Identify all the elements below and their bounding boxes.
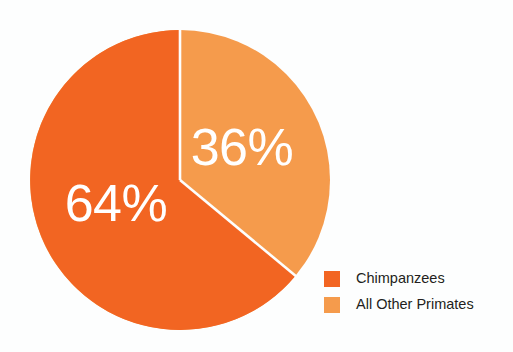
legend-item-all-other-primates[interactable]: All Other Primates <box>324 296 474 313</box>
legend-label-chimpanzees: Chimpanzees <box>356 270 445 287</box>
pie-chart-figure: 64% 36% Chimpanzees All Other Primates <box>0 0 513 352</box>
pie-label-all-other-primates: 36% <box>191 118 294 176</box>
pie-label-chimpanzees: 64% <box>65 174 168 232</box>
legend-label-all-other-primates: All Other Primates <box>356 296 474 313</box>
legend-swatch-all-other-primates <box>324 297 340 313</box>
chart-legend: Chimpanzees All Other Primates <box>324 270 474 313</box>
legend-item-chimpanzees[interactable]: Chimpanzees <box>324 270 474 287</box>
legend-swatch-chimpanzees <box>324 271 340 287</box>
